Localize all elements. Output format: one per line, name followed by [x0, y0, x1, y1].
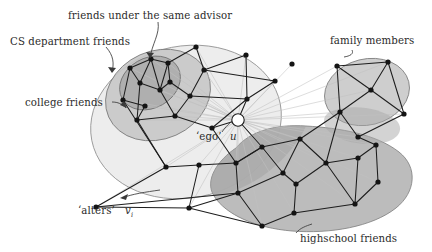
node-alter [172, 113, 177, 118]
label-ego-quote: ‘ego’ [196, 131, 222, 142]
node-alter [142, 103, 147, 108]
leader-family [344, 50, 353, 57]
node-alter [201, 67, 206, 72]
node-alter [163, 164, 168, 169]
node-alter [233, 160, 238, 165]
node-alter [134, 117, 139, 122]
node-alter [196, 162, 201, 167]
node-alter [297, 136, 302, 141]
node-alter [291, 210, 296, 215]
node-alter [352, 201, 357, 206]
node-alter [187, 93, 192, 98]
node-alter [165, 60, 170, 65]
node-isolated [289, 61, 294, 66]
node-alter [401, 111, 406, 116]
ego-network-figure: friends under the same advisor CS depart… [0, 0, 432, 252]
node-alter [385, 59, 390, 64]
node-alter [157, 87, 162, 92]
node-alter [368, 87, 373, 92]
node-alter [355, 134, 360, 139]
label-advisor-group: friends under the same advisor [68, 10, 232, 21]
node-alter [209, 125, 214, 130]
node-alter [259, 144, 264, 149]
node-alter [186, 205, 191, 210]
node-alter [280, 170, 285, 175]
label-family-members: family members [330, 35, 414, 46]
label-ego-symbol: u [230, 131, 237, 142]
label-college-friends: college friends [25, 97, 103, 108]
node-alter [293, 181, 298, 186]
node-alter [137, 80, 142, 85]
ego-node [232, 114, 244, 126]
node-alter [259, 223, 264, 228]
label-alters: ‘alters’ v i [78, 205, 133, 219]
node-alter [148, 56, 153, 61]
label-highschool-friends: highschool friends [300, 233, 397, 244]
node-alter [337, 109, 342, 114]
node-alter [127, 65, 132, 70]
node-alter [334, 63, 339, 68]
node-alter [193, 44, 198, 49]
node-alter [235, 190, 240, 195]
node-alter [373, 142, 378, 147]
node-alter [272, 78, 277, 83]
node-alter [323, 160, 328, 165]
label-alters-subscript: i [131, 211, 133, 219]
label-alters-quote: ‘alters’ [78, 205, 115, 216]
network-canvas: friends under the same advisor CS depart… [0, 0, 432, 252]
label-ego: ‘ego’ u [196, 131, 237, 142]
label-cs-department-friends: CS department friends [10, 36, 130, 47]
node-alter [375, 179, 380, 184]
node-alter [355, 155, 360, 160]
node-alter [120, 97, 125, 102]
node-alter [167, 79, 172, 84]
node-alter [244, 96, 249, 101]
node-alter [243, 52, 248, 57]
